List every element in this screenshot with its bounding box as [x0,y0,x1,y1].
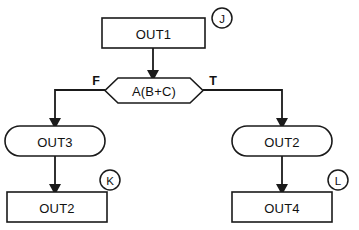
marker-j: J [212,8,232,28]
node-out4-label: OUT4 [264,201,299,216]
edge-decision-true-to-out2 [203,90,288,129]
marker-k: K [100,170,120,190]
node-out2-right-label: OUT2 [264,135,299,150]
node-out2-bottom-label: OUT2 [39,201,74,216]
node-out4[interactable]: OUT4 [232,192,332,222]
branch-label-true: T [209,74,217,88]
node-out2-bottom[interactable]: OUT2 [7,192,107,222]
node-out1[interactable]: OUT1 [102,18,205,48]
edge-out2-to-out4 [276,156,288,195]
edge-out1-to-decision [147,48,159,81]
edge-decision-false-to-out3 [49,90,105,129]
marker-l: L [328,170,348,190]
flowchart-svg: OUT1 A(B+C) OUT3 OUT2 OUT2 OUT4 F T [0,0,359,230]
node-out1-label: OUT1 [136,27,171,42]
node-out2-right[interactable]: OUT2 [232,126,332,156]
edge-out3-to-out2 [49,156,61,195]
marker-k-label: K [106,175,114,187]
node-decision[interactable]: A(B+C) [105,78,203,103]
flowchart-canvas: OUT1 A(B+C) OUT3 OUT2 OUT2 OUT4 F T [0,0,359,230]
node-decision-label: A(B+C) [132,84,176,99]
connector-group [49,48,288,195]
marker-j-label: J [219,13,225,25]
marker-l-label: L [335,175,342,187]
branch-label-false: F [92,74,100,88]
node-out3[interactable]: OUT3 [5,126,105,156]
connector-line [203,90,282,120]
node-out3-label: OUT3 [37,135,72,150]
connector-line [55,90,105,120]
